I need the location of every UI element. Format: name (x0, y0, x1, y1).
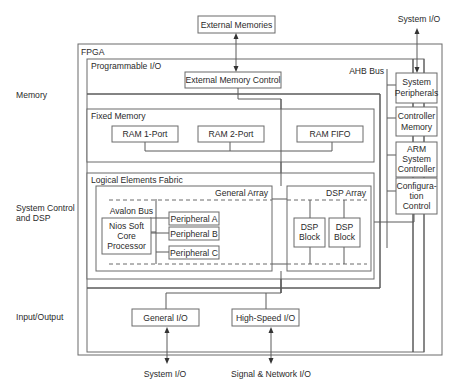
system-peripherals-label-1: System (402, 77, 431, 87)
arm-label-3: Controller (398, 164, 435, 174)
external-memory-control-label: External Memory Control (185, 75, 280, 85)
system-io-bottom-label: System I/O (144, 369, 187, 379)
dsp-array-label: DSP Array (326, 188, 367, 198)
arrow-down-icon (269, 358, 274, 364)
ram-fifo-label: RAM FIFO (309, 129, 350, 139)
dsp-block-2-label-2: Block (334, 232, 356, 242)
peripheral-b-label: Peripheral B (170, 229, 218, 239)
dsp-block-2-label-1: DSP (336, 222, 354, 232)
arrow-up-icon (415, 28, 420, 34)
arrow-down-icon (234, 66, 239, 72)
arrow-up-icon (165, 327, 170, 333)
side-label-input-output: Input/Output (16, 312, 64, 322)
avalon-bus-label: Avalon Bus (110, 206, 153, 216)
side-label-dsp: and DSP (16, 213, 51, 223)
side-label-memory: Memory (16, 90, 48, 100)
arrow-down-icon (165, 358, 170, 364)
config-label-3: Control (403, 201, 431, 211)
peripheral-c-label: Peripheral C (170, 248, 218, 258)
arm-label-2: System (402, 154, 431, 164)
nios-label-3: Processor (107, 241, 146, 251)
ahb-bus-label: AHB Bus (349, 66, 384, 76)
fpga-label: FPGA (81, 47, 105, 57)
fixed-memory-label: Fixed Memory (91, 111, 146, 121)
side-label-system-control: System Control (16, 203, 75, 213)
arrow-up-icon (234, 33, 239, 39)
nios-label-2: Core (117, 231, 136, 241)
ahb-bus-taps (387, 85, 396, 191)
fpga-block-diagram: Memory System Control and DSP Input/Outp… (0, 0, 468, 390)
logical-elements-fabric-label: Logical Elements Fabric (91, 175, 183, 185)
system-io-top-label: System I/O (398, 14, 441, 24)
programmable-io-label: Programmable I/O (91, 61, 162, 71)
general-array-label: General Array (215, 188, 269, 198)
general-io-label: General I/O (143, 313, 188, 323)
io-distribution-wire (166, 293, 281, 309)
ram-1-port-label: RAM 1-Port (123, 129, 168, 139)
arrow-up-icon (269, 327, 274, 333)
config-label-1: Configura- (396, 181, 436, 191)
external-memories-label: External Memories (201, 20, 273, 30)
controller-memory-label-2: Memory (401, 122, 433, 132)
controller-memory-label-1: Controller (398, 111, 435, 121)
dsp-block-1-label-2: Block (299, 232, 321, 242)
peripheral-a-label: Peripheral A (171, 214, 218, 224)
ram-2-port-label: RAM 2-Port (209, 129, 254, 139)
nios-label-1: Nios Soft (109, 221, 144, 231)
high-speed-io-label: High-Speed I/O (236, 313, 296, 323)
signal-network-io-label: Signal & Network I/O (231, 369, 311, 379)
arm-label-1: ARM (407, 144, 426, 154)
config-label-2: tion (410, 191, 424, 201)
dsp-block-1-label-1: DSP (301, 222, 319, 232)
system-peripherals-label-2: Peripherals (395, 88, 438, 98)
